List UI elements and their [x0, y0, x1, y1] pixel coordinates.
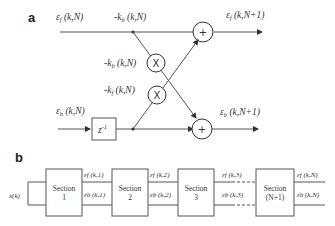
cross-path-down: [133, 32, 196, 118]
section-3-index: 3: [194, 193, 198, 202]
lattice-filter-diagram: a + εf (k,N) -kb (k,N) εf (k,N+1) X -kb …: [0, 0, 335, 226]
sig-b3: εb (k,3): [222, 191, 244, 199]
multiplier-kb-symbol: X: [153, 58, 160, 69]
adder-top-symbol: +: [199, 27, 207, 38]
section-2-name: Section: [119, 184, 142, 193]
sig-f3: εf (k,3): [222, 171, 242, 179]
output-forward-label: εf (k,N+1): [226, 10, 264, 21]
branch-point-bottom: [131, 127, 134, 130]
input-x-label: x(k): [8, 192, 21, 200]
section-3-name: Section: [185, 184, 208, 193]
sig-b1: εb (k,1): [84, 191, 106, 199]
section-n1-index: (N+1): [266, 193, 285, 202]
panel-b-label: b: [15, 150, 23, 165]
sig-b2: εb (k,2): [150, 191, 172, 199]
sig-f1: εf (k,1): [84, 171, 104, 179]
multiplier-kf-symbol: X: [154, 90, 161, 101]
cross-path-up: [133, 40, 198, 129]
section-1-name: Section: [53, 184, 76, 193]
panel-a-label: a: [28, 10, 36, 25]
adder-bottom-symbol: +: [198, 124, 206, 135]
input-backward-label: εb (k,N): [56, 106, 85, 117]
section-1-index: 1: [62, 193, 66, 202]
section-n1-name: Section: [264, 184, 287, 193]
sig-f2: εf (k,2): [150, 171, 170, 179]
output-backward-label: εb (k,N+1): [220, 107, 260, 118]
input-forward-label: εf (k,N): [56, 12, 83, 23]
sig-fN: εf (k,N): [297, 171, 318, 179]
coef-mult1-label: -kb (k,N): [104, 58, 136, 69]
section-2-index: 2: [128, 193, 132, 202]
coef-mult2-label: -kf (k,N): [104, 85, 135, 96]
sig-bN: εb (k,N): [297, 191, 320, 199]
coef-top-label: -kb (k,N): [114, 12, 146, 23]
